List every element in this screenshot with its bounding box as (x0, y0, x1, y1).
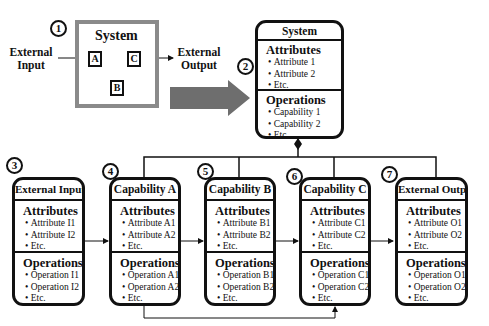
attributes-title: Attributes (21, 204, 82, 218)
class-box-external-output: External Output Attributes Attribute O1 … (395, 177, 468, 306)
operation-item: Capability 1 (264, 107, 341, 119)
operation-item: Etc. (264, 130, 341, 139)
operation-item: Capability 2 (264, 119, 341, 131)
operation-item: Operation A1 (118, 270, 178, 282)
attribute-item: Attribute I1 (21, 218, 82, 230)
external-input-line1: External (6, 46, 56, 59)
attribute-item: Attribute B2 (213, 230, 273, 242)
attributes-title: Attributes (213, 204, 273, 218)
step-number-2: 2 (237, 58, 254, 75)
operation-item: Operation O1 (404, 270, 465, 282)
operation-item: Etc. (404, 293, 465, 305)
operation-item: Operation B2 (213, 282, 273, 294)
operation-item: Etc. (118, 293, 178, 305)
attributes-section: Attributes Attribute B1 Attribute B2 Etc… (207, 201, 273, 251)
class-title: Capability A (112, 180, 178, 201)
attributes-title: Attributes (118, 204, 178, 218)
operation-item: Operation C1 (308, 270, 368, 282)
attribute-item: Attribute O1 (404, 218, 465, 230)
operations-section: Operations Operation C1 Operation C2 Etc… (302, 251, 368, 305)
attribute-item: Attribute 1 (264, 57, 341, 69)
external-output-line1: External (174, 46, 224, 59)
operation-item: Etc. (308, 293, 368, 305)
block-c: C (127, 51, 141, 67)
class-box-external-input: External Input Attributes Attribute I1 A… (12, 177, 85, 306)
operation-item: Operation I2 (21, 282, 82, 294)
class-title: Capability C (302, 180, 368, 201)
operation-item: Operation O2 (404, 282, 465, 294)
operation-item: Operation A2 (118, 282, 178, 294)
external-output-line2: Output (174, 59, 224, 72)
attribute-item: Attribute O2 (404, 230, 465, 242)
attributes-section: Attributes Attribute O1 Attribute O2 Etc… (398, 201, 465, 251)
block-b: B (110, 80, 124, 96)
attribute-item: Attribute A1 (118, 218, 178, 230)
external-input-label: External Input (6, 46, 56, 72)
attribute-item: Attribute I2 (21, 230, 82, 242)
attribute-item: Attribute B1 (213, 218, 273, 230)
flow-a-to-c-feedback (144, 305, 335, 318)
class-box-capability-c: Capability C Attributes Attribute C1 Att… (299, 177, 371, 306)
operations-section: Operations Capability 1 Capability 2 Etc… (258, 89, 341, 139)
operations-title: Operations (213, 256, 273, 270)
external-output-label: External Output (174, 46, 224, 72)
big-transform-arrow (170, 80, 250, 116)
operations-section: Operations Operation A1 Operation A2 Etc… (112, 251, 178, 305)
attribute-item: Attribute A2 (118, 230, 178, 242)
operations-title: Operations (308, 256, 368, 270)
attribute-item: Attribute C2 (308, 230, 368, 242)
step-number-3: 3 (6, 157, 23, 174)
step-number-7: 7 (381, 166, 398, 183)
attribute-item: Attribute C1 (308, 218, 368, 230)
attributes-title: Attributes (404, 204, 465, 218)
class-box-capability-a: Capability A Attributes Attribute A1 Att… (109, 177, 181, 306)
attribute-item: Attribute 2 (264, 69, 341, 81)
system-class-box: System Attributes Attribute 1 Attribute … (255, 20, 344, 139)
operations-section: Operations Operation B1 Operation B2 Etc… (207, 251, 273, 305)
operation-item: Etc. (213, 293, 273, 305)
operations-title: Operations (264, 93, 341, 107)
attributes-section: Attributes Attribute C1 Attribute C2 Etc… (302, 201, 368, 251)
attributes-title: Attributes (264, 43, 341, 57)
external-input-line2: Input (6, 59, 56, 72)
operations-title: Operations (404, 256, 465, 270)
operations-section: Operations Operation I1 Operation I2 Etc… (15, 251, 82, 305)
attributes-section: Attributes Attribute A1 Attribute A2 Etc… (112, 201, 178, 251)
operation-item: Operation C2 (308, 282, 368, 294)
operations-title: Operations (21, 256, 82, 270)
step-number-1: 1 (50, 20, 67, 37)
class-title: External Output (398, 180, 465, 201)
attributes-section: Attributes Attribute 1 Attribute 2 Etc. (258, 41, 341, 89)
operation-item: Operation I1 (21, 270, 82, 282)
class-title: System (258, 23, 341, 41)
operations-title: Operations (118, 256, 178, 270)
class-box-capability-b: Capability B Attributes Attribute B1 Att… (204, 177, 276, 306)
operation-item: Etc. (21, 293, 82, 305)
composition-diamond (294, 138, 302, 150)
class-title: Capability B (207, 180, 273, 201)
attributes-title: Attributes (308, 204, 368, 218)
block-a: A (88, 51, 102, 67)
operations-section: Operations Operation O1 Operation O2 Etc… (398, 251, 465, 305)
class-title: External Input (15, 180, 82, 201)
operation-item: Operation B1 (213, 270, 273, 282)
system-block-title: System (95, 28, 138, 44)
attributes-section: Attributes Attribute I1 Attribute I2 Etc… (15, 201, 82, 251)
